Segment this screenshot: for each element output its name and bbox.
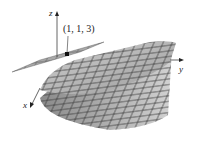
z-axis-label: z <box>48 8 53 18</box>
x-axis <box>30 88 40 108</box>
y-axis <box>170 58 184 62</box>
z-axis <box>55 11 59 57</box>
y-axis-label: y <box>178 64 183 74</box>
surface-diagram: z y x (1, 1, 3) <box>0 0 199 149</box>
x-axis-label: x <box>22 100 27 110</box>
point-label: (1, 1, 3) <box>63 23 95 35</box>
tangent-point <box>65 36 69 56</box>
